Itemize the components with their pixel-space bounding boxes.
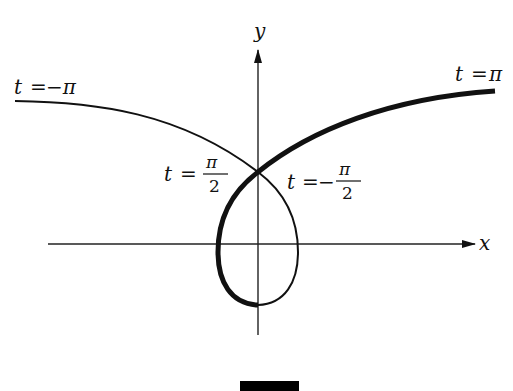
svg-text:=: = xyxy=(30,75,47,99)
svg-text:=: = xyxy=(180,162,197,186)
label-t-pi: t = π xyxy=(455,62,503,86)
curve-thin-branch xyxy=(15,101,298,305)
x-axis-label: x xyxy=(479,231,490,255)
label-t-minus-pi: t = −π xyxy=(14,75,77,99)
svg-text:t: t xyxy=(287,170,296,194)
svg-text:t: t xyxy=(14,75,23,99)
svg-text:π: π xyxy=(338,159,351,179)
svg-text:t: t xyxy=(455,62,464,86)
curve-thick-branch xyxy=(218,91,495,305)
svg-text:2: 2 xyxy=(342,183,353,203)
svg-text:=: = xyxy=(302,170,319,194)
svg-text:π: π xyxy=(488,62,503,86)
svg-text:−π: −π xyxy=(46,75,77,99)
y-axis-label: y xyxy=(253,19,266,43)
svg-text:π: π xyxy=(205,152,218,172)
svg-text:−: − xyxy=(318,170,335,194)
parametric-curve-diagram: y x t = −π t = π t = π 2 t = − π 2 xyxy=(0,0,513,391)
label-t-pi-over-2: t = π 2 xyxy=(164,152,228,196)
svg-text:2: 2 xyxy=(209,176,220,196)
redaction-block xyxy=(240,381,299,391)
label-t-minus-pi-over-2: t = − π 2 xyxy=(287,159,361,203)
svg-text:=: = xyxy=(471,62,488,86)
svg-text:t: t xyxy=(164,162,173,186)
